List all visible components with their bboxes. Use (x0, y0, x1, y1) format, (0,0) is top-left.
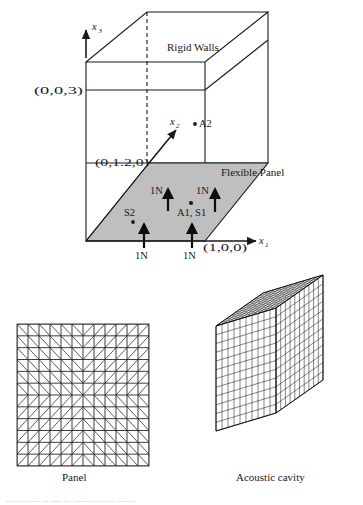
panel-mesh-diagonal (39, 360, 50, 372)
panel-mesh-diagonal (127, 336, 138, 348)
panel-mesh-diagonal (61, 395, 72, 407)
panel-mesh-diagonal (72, 407, 83, 419)
panel-mesh-diagonal (127, 407, 138, 419)
panel-mesh-diagonal (105, 360, 116, 372)
panel-mesh-diagonal (116, 407, 127, 419)
panel-mesh-diagonal (138, 407, 149, 419)
force-label-lower-left: 1N (135, 250, 148, 261)
panel-mesh-diagonal (83, 324, 94, 336)
panel-mesh-diagonal (72, 419, 83, 431)
panel-mesh-diagonal (127, 360, 138, 372)
axis-x2 (149, 130, 176, 163)
panel-mesh-diagonal (138, 395, 149, 407)
axis-x2-label: x (169, 116, 175, 127)
panel-mesh-diagonal (94, 419, 105, 431)
figure-caption-cutoff: ........ ..... .. .... ... ....... .... … (6, 493, 136, 504)
panel-mesh-diagonal (17, 419, 28, 431)
panel-mesh-diagonal (28, 454, 39, 466)
panel-mesh-diagonal (28, 431, 39, 443)
panel-mesh-caption: Panel (62, 471, 86, 483)
panel-mesh-diagonal (138, 348, 149, 360)
panel-mesh-diagonal (28, 407, 39, 419)
panel-mesh-diagonal (138, 324, 149, 336)
figure-root: x 3 x 1 x 2 (0,0,3) (0,1.2,0) (1,0,0) Ri… (0, 0, 363, 505)
panel-mesh-diagonal (17, 336, 28, 348)
panel-mesh-diagonal (17, 431, 28, 443)
panel-mesh-diagonal (116, 442, 127, 454)
panel-mesh-diagonal (138, 454, 149, 466)
panel-mesh-diagonal (72, 383, 83, 395)
axis-x1-subscript: 1 (265, 241, 269, 249)
panel-mesh-diagonal (61, 324, 72, 336)
panel-mesh-diagonal (61, 442, 72, 454)
force-label-upper-right: 1N (196, 185, 209, 196)
panel-mesh-diagonal (94, 454, 105, 466)
panel-mesh-diagonal (39, 348, 50, 360)
cavity-mesh-caption: Acoustic cavity (236, 471, 305, 483)
box-top-face (86, 12, 268, 62)
point-a1-s1-marker-dot (189, 201, 193, 205)
panel-mesh-diagonal (105, 324, 116, 336)
panel-mesh-diagonal (105, 371, 116, 383)
panel-mesh-diagonal (105, 407, 116, 419)
figure-svg: x 3 x 1 x 2 (0,0,3) (0,1.2,0) (1,0,0) Ri… (0, 0, 363, 505)
panel-mesh-diagonal (105, 336, 116, 348)
panel-mesh-diagonal (138, 383, 149, 395)
panel-mesh-diagonal (50, 371, 61, 383)
axis-x3-subscript: 3 (98, 27, 103, 35)
panel-mesh-diagonal (50, 336, 61, 348)
panel-mesh-diagonal (50, 348, 61, 360)
cavity-mesh-diagram: Acoustic cavity (216, 275, 323, 483)
panel-mesh-diagonal (94, 324, 105, 336)
panel-mesh-diagonal (127, 442, 138, 454)
panel-mesh-diagonal (50, 454, 61, 466)
point-s2-marker-dot (131, 220, 135, 224)
panel-mesh-diagonal (28, 383, 39, 395)
panel-mesh-diagonal (127, 431, 138, 443)
panel-mesh-diagonal (28, 336, 39, 348)
panel-mesh-diagonal (28, 395, 39, 407)
panel-mesh-diagonal (50, 407, 61, 419)
panel-mesh-diagonal (138, 360, 149, 372)
panel-mesh-diagonal (116, 371, 127, 383)
panel-mesh-diagonal (72, 348, 83, 360)
axis-x2-subscript: 2 (176, 122, 180, 130)
panel-mesh-diagonal (39, 395, 50, 407)
panel-mesh-diagonal (61, 360, 72, 372)
panel-mesh-diagonal (28, 442, 39, 454)
panel-mesh-diagonal (94, 431, 105, 443)
coord-label-1-0-0: (1,0,0) (203, 242, 248, 254)
panel-mesh-diagonal (50, 360, 61, 372)
panel-mesh-diagonal (61, 407, 72, 419)
panel-mesh-diagonal (116, 348, 127, 360)
upper-schematic: x 3 x 1 x 2 (0,0,3) (0,1.2,0) (1,0,0) Ri… (34, 12, 284, 261)
force-label-lower-center: 1N (183, 250, 196, 261)
panel-mesh-diagonal (94, 348, 105, 360)
panel-mesh-diagonal (61, 431, 72, 443)
panel-mesh-diagonal (72, 431, 83, 443)
point-s2-label: S2 (124, 207, 135, 218)
rigid-walls-label: Rigid Walls (167, 41, 219, 53)
panel-mesh-diagonal (83, 454, 94, 466)
panel-mesh-diagonal (50, 324, 61, 336)
point-a1-s1-label: A1, S1 (177, 207, 206, 218)
panel-mesh-diagonal (50, 442, 61, 454)
panel-mesh-diagonal (61, 371, 72, 383)
panel-mesh-diagonal (94, 442, 105, 454)
flexible-panel-label: Flexible Panel (221, 166, 284, 178)
panel-mesh-diagonal (17, 442, 28, 454)
axis-x1-label: x (258, 235, 264, 246)
panel-mesh-diagonal (50, 395, 61, 407)
panel-mesh-diagonal (94, 336, 105, 348)
panel-mesh-diagonal (50, 383, 61, 395)
panel-mesh-diagonal (105, 431, 116, 443)
panel-mesh-diagonal (83, 431, 94, 443)
panel-mesh-diagonal (83, 419, 94, 431)
panel-mesh-diagonal (127, 454, 138, 466)
panel-mesh-diagonal (28, 371, 39, 383)
panel-mesh-diagonal (94, 395, 105, 407)
panel-mesh-diagonal (17, 348, 28, 360)
panel-mesh-diagonal (83, 348, 94, 360)
panel-mesh-diagonal (105, 442, 116, 454)
panel-mesh-diagonal (39, 454, 50, 466)
